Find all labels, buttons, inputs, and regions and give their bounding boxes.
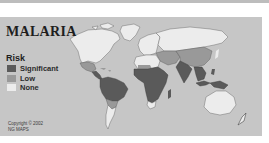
legend-item-none: None (7, 83, 58, 92)
south-america-north (100, 77, 128, 101)
middle-east (156, 51, 180, 65)
madagascar (168, 89, 171, 99)
map-panel: MALARIA Risk Significant Low None Copyri… (0, 17, 262, 136)
south-america-south (106, 105, 116, 129)
australia (204, 91, 236, 115)
legend-label: Low (20, 74, 35, 83)
top-border (0, 0, 269, 3)
legend-heading: Risk (6, 53, 25, 63)
legend-item-low: Low (7, 74, 58, 83)
central-america (92, 71, 102, 79)
caribbean (100, 68, 111, 72)
sub-saharan-africa (134, 67, 168, 103)
arctic-islands (92, 23, 114, 30)
legend-item-significant: Significant (7, 64, 58, 73)
swatch-low (7, 75, 16, 82)
copyright: Copyright © 2002 NG MAPS (8, 121, 43, 133)
north-america (70, 29, 120, 63)
indonesia (196, 81, 228, 89)
europe (138, 33, 160, 55)
swatch-significant (7, 65, 16, 72)
mexico (80, 62, 96, 72)
publisher-line: NG MAPS (8, 127, 43, 133)
legend: Significant Low None (7, 64, 58, 93)
swatch-none (7, 84, 16, 91)
legend-label: Significant (20, 64, 58, 73)
southeast-asia (194, 67, 206, 81)
japan (215, 49, 219, 59)
russia (156, 27, 228, 51)
legend-label: None (20, 83, 39, 92)
new-zealand (238, 113, 246, 125)
philippines (211, 69, 215, 75)
map-title: MALARIA (6, 24, 77, 40)
greenland (120, 24, 140, 41)
